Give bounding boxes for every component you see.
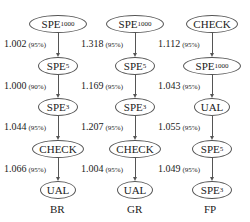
edge-line <box>212 158 213 178</box>
edge-line <box>135 33 136 54</box>
node-label: SPE <box>124 60 143 72</box>
edge-value: 1.044 <box>4 121 27 132</box>
column-label: FP <box>204 203 216 215</box>
edge-line <box>135 158 136 178</box>
node-subscript: 1000 <box>60 20 74 28</box>
node-label: SPE <box>196 60 215 72</box>
edge-line <box>58 75 59 95</box>
node-label: CHECK <box>39 143 76 155</box>
node-ual: UAL <box>194 98 230 116</box>
edge-line <box>58 116 59 137</box>
node-spe5: SPE5 <box>192 140 232 158</box>
node-label: SPE <box>201 184 220 196</box>
node-check: CHECK <box>109 140 161 158</box>
node-subscript: 1000 <box>137 20 151 28</box>
edge-line <box>212 33 213 54</box>
node-check: CHECK <box>32 140 84 158</box>
edge-line <box>58 158 59 178</box>
edge-label: 1.002(95%) <box>4 38 46 49</box>
node-label: SPE <box>47 60 66 72</box>
edge-label: 1.055(95%) <box>158 121 200 132</box>
edge-label: 1.112(95%) <box>158 38 200 49</box>
edge-value: 1.004 <box>81 163 104 174</box>
node-spe5: SPE5 <box>38 57 78 75</box>
node-spe3: SPE3 <box>115 98 155 116</box>
edge-value: 1.207 <box>81 121 104 132</box>
edge-confidence: (95%) <box>106 83 124 91</box>
node-spe1000: SPE1000 <box>106 15 164 33</box>
edge-confidence: (95%) <box>183 124 201 132</box>
column-label: GR <box>127 203 142 215</box>
edge-value: 1.112 <box>158 38 180 49</box>
node-subscript: 1000 <box>214 62 228 70</box>
node-label: SPE <box>119 18 138 30</box>
edge-label: 1.049(95%) <box>158 163 200 174</box>
edge-label: 1.043(95%) <box>158 80 200 91</box>
edge-line <box>58 33 59 54</box>
edge-label: 1.207(95%) <box>81 121 123 132</box>
node-label: CHECK <box>116 143 153 155</box>
node-label: SPE <box>124 101 143 113</box>
node-spe3: SPE3 <box>38 98 78 116</box>
edge-label: 1.044(95%) <box>4 121 46 132</box>
edge-confidence: (95%) <box>29 41 47 49</box>
edge-confidence: (95%) <box>29 166 47 174</box>
column-label: BR <box>50 203 65 215</box>
edge-confidence: (95%) <box>106 166 124 174</box>
edge-line <box>212 116 213 137</box>
node-check: CHECK <box>186 15 238 33</box>
edge-value: 1.049 <box>158 163 181 174</box>
edge-value: 1.055 <box>158 121 181 132</box>
node-ual: UAL <box>40 181 76 199</box>
edge-value: 1.000 <box>4 80 27 91</box>
node-spe5: SPE5 <box>115 57 155 75</box>
edge-value: 1.066 <box>4 163 27 174</box>
edge-line <box>135 116 136 137</box>
edge-confidence: (95%) <box>106 41 124 49</box>
node-spe1000: SPE1000 <box>29 15 87 33</box>
node-label: SPE <box>47 101 66 113</box>
node-label: SPE <box>42 18 61 30</box>
edge-value: 1.002 <box>4 38 27 49</box>
edge-confidence: (95%) <box>183 166 201 174</box>
node-subscript: 3 <box>143 103 147 111</box>
edge-confidence: (90%) <box>29 83 47 91</box>
edge-confidence: (95%) <box>183 83 201 91</box>
node-spe3: SPE3 <box>192 181 232 199</box>
edge-label: 1.066(95%) <box>4 163 46 174</box>
edge-confidence: (95%) <box>106 124 124 132</box>
node-label: CHECK <box>193 18 230 30</box>
edge-confidence: (95%) <box>182 41 200 49</box>
node-subscript: 3 <box>66 103 70 111</box>
node-subscript: 5 <box>220 145 224 153</box>
node-spe1000: SPE1000 <box>183 57 241 75</box>
node-subscript: 3 <box>220 186 224 194</box>
edge-line <box>212 75 213 95</box>
node-label: SPE <box>201 143 220 155</box>
edge-value: 1.169 <box>81 80 104 91</box>
node-subscript: 5 <box>143 62 147 70</box>
node-ual: UAL <box>117 181 153 199</box>
edge-label: 1.000(90%) <box>4 80 46 91</box>
edge-line <box>135 75 136 95</box>
node-subscript: 5 <box>66 62 70 70</box>
edge-confidence: (95%) <box>29 124 47 132</box>
edge-value: 1.318 <box>81 38 104 49</box>
edge-label: 1.169(95%) <box>81 80 123 91</box>
node-label: UAL <box>124 184 147 196</box>
node-label: UAL <box>201 101 224 113</box>
edge-label: 1.004(95%) <box>81 163 123 174</box>
edge-value: 1.043 <box>158 80 181 91</box>
edge-label: 1.318(95%) <box>81 38 123 49</box>
node-label: UAL <box>47 184 70 196</box>
